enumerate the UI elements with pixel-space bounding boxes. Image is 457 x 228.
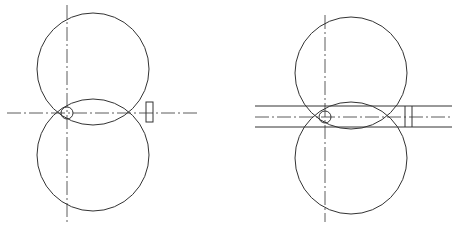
rect-marker <box>146 102 153 122</box>
bottom-roll-circle <box>37 99 149 211</box>
technical-diagram <box>0 0 457 228</box>
top-roll-circle <box>37 13 149 125</box>
right-roll-diagram <box>255 15 452 222</box>
top-roll-circle <box>295 17 407 129</box>
left-roll-diagram <box>7 5 199 222</box>
bottom-roll-circle <box>295 102 407 214</box>
